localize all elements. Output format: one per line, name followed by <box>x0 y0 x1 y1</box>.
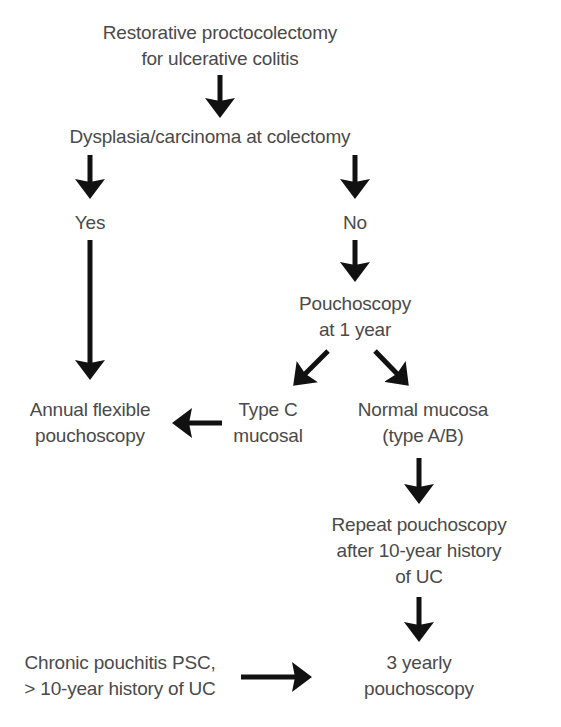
node-pouchoscopy-line-1: Pouchoscopy <box>265 291 445 317</box>
node-pouchoscopy-line-2: at 1 year <box>265 317 445 343</box>
arrows-layer <box>0 0 561 727</box>
node-normal-mucosa: Normal mucosa (type A/B) <box>333 397 513 449</box>
node-type-c-line-1: Type C <box>208 397 328 423</box>
node-dysplasia-line-1: Dysplasia/carcinoma at colectomy <box>40 124 380 150</box>
node-three-yearly-line-1: 3 yearly <box>329 650 509 676</box>
node-no: No <box>315 210 395 236</box>
node-repeat-line-1: Repeat pouchoscopy <box>309 512 529 538</box>
node-annual-line-1: Annual flexible <box>5 397 175 423</box>
node-repeat-line-2: after 10-year history <box>309 538 529 564</box>
node-start-line-2: for ulcerative colitis <box>70 46 370 72</box>
node-type-c-line-2: mucosal <box>208 423 328 449</box>
node-annual-line-2: pouchoscopy <box>5 423 175 449</box>
node-chronic-pouchitis: Chronic pouchitis PSC, > 10-year history… <box>10 650 230 702</box>
node-repeat-line-3: of UC <box>309 564 529 590</box>
node-pouchoscopy-1yr: Pouchoscopy at 1 year <box>265 291 445 343</box>
arrow-pouchoscopy-to-type-c <box>296 351 328 383</box>
node-normal-line-2: (type A/B) <box>333 423 513 449</box>
node-three-yearly-line-2: pouchoscopy <box>329 676 509 702</box>
node-no-label: No <box>315 210 395 236</box>
node-normal-line-1: Normal mucosa <box>333 397 513 423</box>
node-dysplasia: Dysplasia/carcinoma at colectomy <box>40 124 380 150</box>
node-chronic-line-1: Chronic pouchitis PSC, <box>10 650 230 676</box>
node-yes: Yes <box>50 210 130 236</box>
node-repeat-pouchoscopy: Repeat pouchoscopy after 10-year history… <box>309 512 529 590</box>
node-type-c-mucosal: Type C mucosal <box>208 397 328 449</box>
node-annual-flexible-pouchoscopy: Annual flexible pouchoscopy <box>5 397 175 449</box>
node-yes-label: Yes <box>50 210 130 236</box>
arrow-pouchoscopy-to-normal <box>375 351 406 383</box>
node-start: Restorative proctocolectomy for ulcerati… <box>70 20 370 72</box>
node-chronic-line-2: > 10-year history of UC <box>10 676 230 702</box>
node-three-yearly-pouchoscopy: 3 yearly pouchoscopy <box>329 650 509 702</box>
node-start-line-1: Restorative proctocolectomy <box>70 20 370 46</box>
